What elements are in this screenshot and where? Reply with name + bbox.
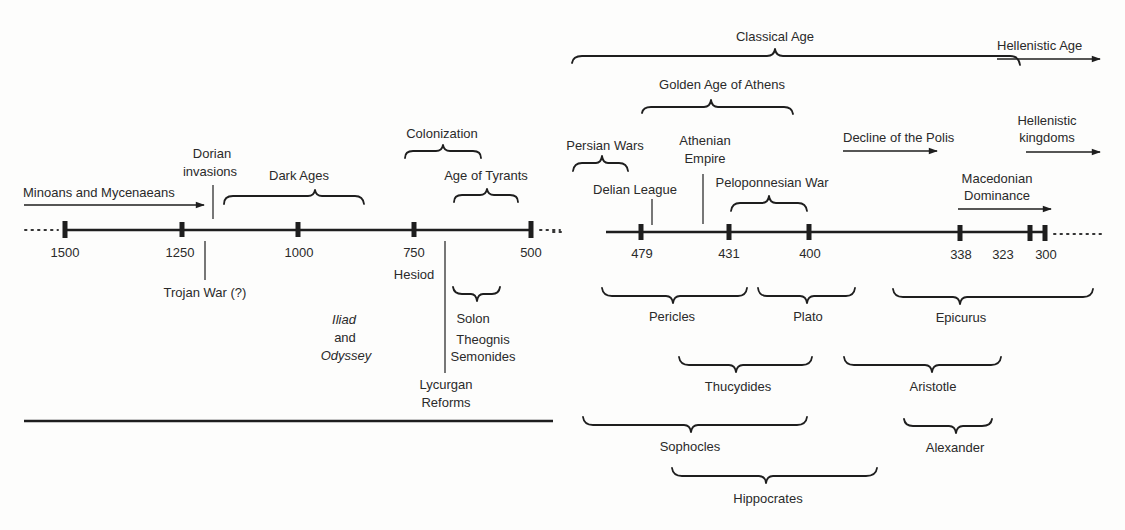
tick-1500 <box>63 221 68 238</box>
label-trojan-war: Trojan War (?) <box>164 285 247 300</box>
label-theognis: Theognis <box>456 332 510 347</box>
label-lycurgan-1: Lycurgan <box>420 377 473 392</box>
brace-aristotle <box>844 357 1001 372</box>
label-macedonian-1: Macedonian <box>962 171 1033 186</box>
tick-label-500: 500 <box>520 245 542 260</box>
label-dark-ages: Dark Ages <box>269 168 329 183</box>
tick-label-1250: 1250 <box>166 245 195 260</box>
label-macedonian-2: Dominance <box>964 188 1030 203</box>
label-peloponnesian-war: Peloponnesian War <box>716 175 830 190</box>
left-timeline: 1500 1250 1000 750 500 Minoans and Mycen… <box>23 126 560 421</box>
label-hesiod: Hesiod <box>394 267 434 282</box>
brace-age-of-tyrants <box>454 189 518 202</box>
label-odyssey: Odyssey <box>321 348 373 363</box>
tick-400 <box>807 224 812 240</box>
label-classical-age: Classical Age <box>736 29 814 44</box>
label-epicurus: Epicurus <box>936 310 987 325</box>
label-alexander: Alexander <box>926 440 985 455</box>
label-plato: Plato <box>793 309 823 324</box>
label-hippocrates: Hippocrates <box>733 491 803 506</box>
tick-338 <box>958 225 963 241</box>
tick-431 <box>727 224 732 240</box>
label-delian-league: Delian League <box>593 182 677 197</box>
brace-hippocrates <box>672 468 877 483</box>
tick-label-323: 323 <box>992 247 1014 262</box>
tick-label-400: 400 <box>799 246 821 261</box>
tick-500 <box>529 221 534 238</box>
label-hellenistic-kingdoms-1: Hellenistic <box>1017 113 1077 128</box>
brace-golden-age <box>642 100 793 114</box>
brace-pericles <box>602 288 747 303</box>
label-sophocles: Sophocles <box>660 439 721 454</box>
tick-1250 <box>180 222 185 237</box>
label-persian-wars: Persian Wars <box>566 138 644 153</box>
label-minoans-mycenaeans: Minoans and Mycenaeans <box>23 185 175 200</box>
label-and: and <box>334 330 356 345</box>
label-semonides: Semonides <box>450 349 516 364</box>
brace-plato <box>758 288 855 303</box>
label-athenian-2: Empire <box>684 151 725 166</box>
label-iliad: Iliad <box>332 312 357 327</box>
tick-label-300: 300 <box>1035 247 1057 262</box>
brace-alexander <box>904 419 992 433</box>
tick-label-1500: 1500 <box>51 245 80 260</box>
label-pericles: Pericles <box>649 309 696 324</box>
tick-label-479: 479 <box>631 246 653 261</box>
brace-solon <box>453 287 500 301</box>
brace-classical-age <box>572 49 1020 65</box>
brace-sophocles <box>583 417 807 432</box>
greek-history-timeline: 1500 1250 1000 750 500 Minoans and Mycen… <box>0 0 1125 530</box>
label-lycurgan-2: Reforms <box>421 395 471 410</box>
brace-persian-wars <box>573 156 628 171</box>
right-timeline: 479 431 400 338 323 300 Classical Age He… <box>553 29 1105 506</box>
label-hellenistic-age: Hellenistic Age <box>997 38 1082 53</box>
tick-label-750: 750 <box>403 245 425 260</box>
tick-750 <box>412 222 417 237</box>
label-dorian-2: invasions <box>183 164 238 179</box>
label-dorian-1: Dorian <box>193 146 231 161</box>
brace-thucydides <box>679 357 812 372</box>
brace-epicurus <box>893 289 1093 304</box>
label-solon: Solon <box>456 311 489 326</box>
label-athenian-1: Athenian <box>679 133 730 148</box>
label-hellenistic-kingdoms-2: kingdoms <box>1019 130 1075 145</box>
tick-label-338: 338 <box>950 247 972 262</box>
tick-label-431: 431 <box>718 246 740 261</box>
tick-1000 <box>296 222 301 237</box>
tick-label-1000: 1000 <box>285 245 314 260</box>
brace-peloponnesian-war <box>731 196 807 211</box>
brace-colonization <box>405 145 481 158</box>
label-decline-polis: Decline of the Polis <box>843 130 955 145</box>
label-golden-age: Golden Age of Athens <box>659 77 785 92</box>
tick-479 <box>639 224 644 240</box>
label-aristotle: Aristotle <box>910 379 957 394</box>
label-age-of-tyrants: Age of Tyrants <box>444 168 528 183</box>
label-thucydides: Thucydides <box>705 379 772 394</box>
tick-300 <box>1043 225 1048 241</box>
label-colonization: Colonization <box>406 126 478 141</box>
tick-323 <box>1028 225 1033 241</box>
brace-dark-ages <box>224 190 364 204</box>
